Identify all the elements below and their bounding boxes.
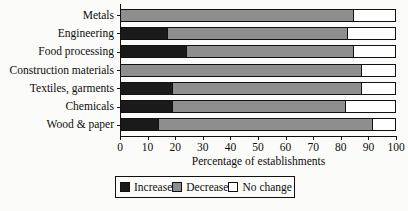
x-axis-tick-label: 20 bbox=[169, 141, 181, 154]
bar-segment-no-change bbox=[354, 46, 395, 57]
bar-row bbox=[120, 118, 396, 131]
x-axis-tick-label: 100 bbox=[387, 141, 404, 154]
stacked-bar bbox=[120, 9, 396, 22]
bar-segment-increase bbox=[121, 83, 173, 94]
x-axis-tick bbox=[286, 136, 287, 140]
x-axis-tick bbox=[175, 136, 176, 140]
y-axis-label-food-processing: Food processing bbox=[38, 45, 114, 58]
bar-segment-decrease bbox=[121, 10, 354, 21]
x-axis-tick-label: 10 bbox=[142, 141, 154, 154]
y-axis-tick bbox=[117, 88, 121, 89]
bar-segment-increase bbox=[121, 119, 159, 130]
legend-label: No change bbox=[242, 181, 292, 193]
legend-label: Decrease bbox=[186, 181, 228, 193]
x-axis-tick bbox=[120, 136, 121, 140]
stacked-bar bbox=[120, 82, 396, 95]
x-axis-tick-label: 0 bbox=[117, 141, 123, 154]
y-axis-label-chemicals: Chemicals bbox=[65, 100, 114, 113]
bar-row bbox=[120, 82, 396, 95]
x-axis-tick bbox=[368, 136, 369, 140]
x-axis-tick bbox=[148, 136, 149, 140]
legend-swatch-icon bbox=[228, 182, 238, 192]
bar-segment-decrease bbox=[121, 65, 362, 76]
bar-segment-no-change bbox=[346, 101, 395, 112]
bar-row bbox=[120, 100, 396, 113]
x-axis-tick-label: 30 bbox=[197, 141, 209, 154]
y-axis-tick bbox=[117, 70, 121, 71]
bar-segment-no-change bbox=[373, 119, 395, 130]
x-axis-tick-label: 70 bbox=[307, 141, 319, 154]
bar-segment-increase bbox=[121, 28, 168, 39]
x-axis-tick bbox=[230, 136, 231, 140]
bar-row bbox=[120, 45, 396, 58]
stacked-bar-chart: MetalsEngineeringFood processingConstruc… bbox=[0, 0, 408, 211]
y-axis-label-wood-paper: Wood & paper bbox=[47, 118, 114, 131]
x-axis-tick bbox=[341, 136, 342, 140]
legend-swatch-icon bbox=[172, 182, 182, 192]
x-axis-title: Percentage of establishments bbox=[120, 155, 397, 167]
y-axis-tick bbox=[117, 52, 121, 53]
x-axis-tick bbox=[203, 136, 204, 140]
y-axis-label-engineering: Engineering bbox=[58, 27, 114, 40]
x-axis-tick bbox=[396, 136, 397, 140]
bar-segment-no-change bbox=[348, 28, 395, 39]
bar-segment-decrease bbox=[159, 119, 373, 130]
bar-segment-decrease bbox=[173, 101, 346, 112]
bar-segment-decrease bbox=[173, 83, 362, 94]
bar-segment-increase bbox=[121, 101, 173, 112]
x-axis-tick-label: 60 bbox=[280, 141, 292, 154]
y-axis-tick bbox=[117, 15, 121, 16]
plot-area bbox=[120, 6, 396, 134]
x-axis-tick-label: 40 bbox=[225, 141, 237, 154]
bar-row bbox=[120, 9, 396, 22]
bar-segment-increase bbox=[121, 46, 187, 57]
stacked-bar bbox=[120, 45, 396, 58]
x-axis-tick bbox=[313, 136, 314, 140]
bar-segment-no-change bbox=[362, 83, 395, 94]
stacked-bar bbox=[120, 118, 396, 131]
bar-segment-decrease bbox=[187, 46, 354, 57]
y-axis-tick bbox=[117, 107, 121, 108]
legend-swatch-icon bbox=[120, 182, 130, 192]
chart-legend: IncreaseDecreaseNo change bbox=[115, 176, 295, 198]
legend-label: Increase bbox=[134, 181, 172, 193]
legend-item-decrease: Decrease bbox=[172, 181, 228, 193]
y-axis-tick bbox=[117, 33, 121, 34]
y-axis-tick bbox=[117, 125, 121, 126]
stacked-bar bbox=[120, 100, 396, 113]
y-axis-label-metals: Metals bbox=[83, 9, 114, 22]
legend-item-increase: Increase bbox=[120, 181, 172, 193]
bar-row bbox=[120, 27, 396, 40]
stacked-bar bbox=[120, 64, 396, 77]
bar-segment-decrease bbox=[168, 28, 349, 39]
x-axis-tick-label: 50 bbox=[252, 141, 264, 154]
bar-row bbox=[120, 64, 396, 77]
bar-segment-no-change bbox=[354, 10, 395, 21]
stacked-bar bbox=[120, 27, 396, 40]
legend-item-no-change: No change bbox=[228, 181, 292, 193]
x-axis-tick-label: 90 bbox=[363, 141, 375, 154]
x-axis-tick bbox=[258, 136, 259, 140]
x-axis-tick-label: 80 bbox=[335, 141, 347, 154]
y-axis-label-textiles-garments: Textiles, garments bbox=[30, 82, 114, 95]
bar-segment-no-change bbox=[362, 65, 395, 76]
y-axis-label-construction-materials: Construction materials bbox=[10, 64, 114, 77]
y-axis-category-labels: MetalsEngineeringFood processingConstruc… bbox=[0, 6, 118, 134]
